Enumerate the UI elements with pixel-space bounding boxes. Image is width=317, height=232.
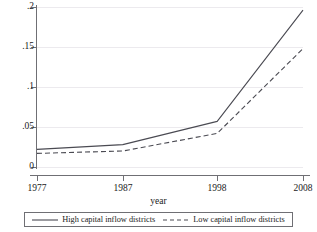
legend-key-dashed-line-icon bbox=[163, 218, 189, 222]
gridline-0 bbox=[37, 167, 303, 168]
x-tick-1977 bbox=[37, 176, 38, 181]
legend-label-high-capital-inflow: High capital inflow districts bbox=[62, 215, 155, 224]
series-line-high-capital-inflow bbox=[37, 10, 303, 149]
chart-legend: High capital inflow districts Low capita… bbox=[24, 212, 293, 227]
chart-figure: · · .2 .15 .1 .05 0 1977 1987 1998 2008 … bbox=[0, 0, 317, 232]
x-axis-label-2008: 2008 bbox=[283, 184, 317, 194]
legend-entry-high-capital-inflow: High capital inflow districts bbox=[28, 215, 159, 224]
x-axis-label-1987: 1987 bbox=[103, 184, 143, 194]
x-axis-line bbox=[30, 175, 310, 176]
x-tick-1987 bbox=[123, 176, 124, 181]
y-axis-label-0.05: .05 bbox=[4, 122, 34, 132]
y-axis-line bbox=[36, 5, 37, 169]
x-axis-label-1977: 1977 bbox=[17, 184, 57, 194]
legend-key-solid-line-icon bbox=[32, 218, 58, 222]
chart-title-cropped: · · bbox=[0, 0, 317, 2]
y-axis-label-0.15: .15 bbox=[4, 42, 34, 52]
x-axis-title: year bbox=[0, 196, 317, 206]
x-axis-label-1998: 1998 bbox=[197, 184, 237, 194]
y-axis-label-0: 0 bbox=[4, 162, 34, 172]
plot-area bbox=[37, 7, 303, 167]
y-axis-label-0.2: .2 bbox=[4, 2, 34, 12]
legend-label-low-capital-inflow: Low capital inflow districts bbox=[193, 215, 284, 224]
legend-entry-low-capital-inflow: Low capital inflow districts bbox=[159, 215, 288, 224]
x-tick-2008 bbox=[303, 176, 304, 181]
x-tick-1998 bbox=[217, 176, 218, 181]
series-lines bbox=[37, 7, 303, 167]
y-axis-label-0.1: .1 bbox=[4, 82, 34, 92]
series-line-low-capital-inflow bbox=[37, 49, 303, 154]
